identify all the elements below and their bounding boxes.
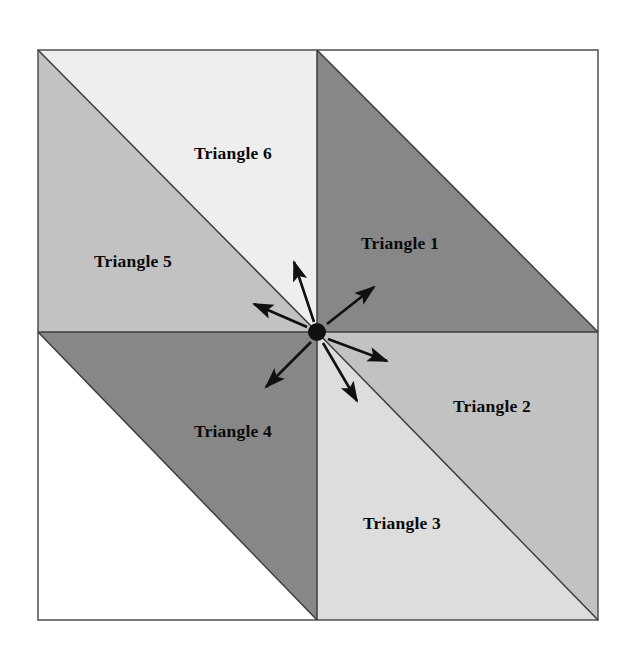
triangle-fan-diagram: Triangle 1Triangle 2Triangle 3Triangle 4… [0,0,626,661]
label-triangle-2: Triangle 2 [453,396,531,416]
label-triangle-1: Triangle 1 [361,233,439,253]
figure-root: Triangle 1Triangle 2Triangle 3Triangle 4… [0,0,626,661]
label-triangle-4: Triangle 4 [194,421,272,441]
label-triangle-5: Triangle 5 [94,251,172,271]
label-triangle-6: Triangle 6 [194,143,272,163]
label-triangle-3: Triangle 3 [363,513,441,533]
center-point-dot [308,323,326,341]
